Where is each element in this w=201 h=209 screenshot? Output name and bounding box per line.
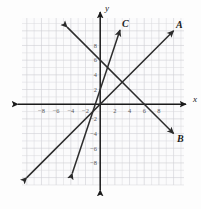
x-tick-label: 6 bbox=[143, 107, 146, 114]
y-tick-label: −6 bbox=[90, 145, 97, 152]
y-tick-label: 6 bbox=[94, 56, 97, 63]
x-tick-label: 8 bbox=[157, 107, 160, 114]
line-b-label: B bbox=[176, 133, 184, 144]
y-axis-label: y bbox=[104, 3, 109, 13]
x-tick-label: −2 bbox=[82, 107, 89, 114]
coordinate-graph-figure: −8−6−4−22468 8642−2−4−6−8 y x A B C bbox=[0, 0, 201, 209]
x-tick-label: −4 bbox=[67, 107, 75, 114]
x-tick-label: −8 bbox=[38, 107, 45, 114]
y-tick-label: −2 bbox=[90, 115, 97, 122]
line-a-label: A bbox=[175, 19, 183, 30]
y-tick-label: −8 bbox=[90, 159, 97, 166]
y-tick-label: −4 bbox=[90, 130, 98, 137]
y-tick-label: 8 bbox=[94, 42, 97, 49]
x-tick-label: 2 bbox=[113, 107, 116, 114]
y-tick-label: 2 bbox=[94, 86, 97, 93]
x-axis-label: x bbox=[192, 94, 197, 104]
coordinate-plane-svg: −8−6−4−22468 8642−2−4−6−8 y x A B C bbox=[0, 0, 201, 209]
x-tick-label: −6 bbox=[53, 107, 60, 114]
line-c-label: C bbox=[122, 18, 129, 29]
